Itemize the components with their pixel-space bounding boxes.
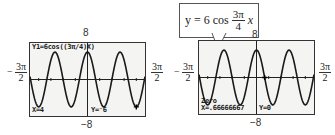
xmax-label: 3π 2 [319, 62, 331, 83]
ymin-label: −8 [250, 117, 261, 128]
right-graph-panel: y = 6 cos 3π 4 x 8 − 3π 2 Zero X=.666666… [168, 0, 335, 135]
trace-y-value: Y=⁻6 [91, 107, 107, 114]
xmax-label: 3π 2 [151, 62, 163, 83]
xmin-label: − 3π 2 [15, 62, 27, 83]
result-y-value: Y=0 [259, 105, 271, 112]
equation-line: Y1=6cos((3π/4)X) [32, 44, 95, 51]
ymax-label: 8 [252, 29, 258, 40]
callout-lhs: y = 6 cos [185, 13, 229, 28]
xmin-label: − 3π 2 [182, 62, 194, 83]
ymin-label: −8 [81, 119, 92, 130]
callout-fraction: 3π 4 [232, 9, 245, 32]
calculator-screen: Y1=6cos((3π/4)X) X=4 Y=⁻6 [29, 42, 146, 117]
callout-variable: x [248, 13, 253, 28]
ymax-label: 8 [83, 27, 89, 38]
trace-x-value: X=4 [32, 107, 44, 114]
left-graph-panel: 8 − 3π 2 Y1=6cos((3π/4)X) X=4 Y=⁻6 3π 2 … [0, 0, 168, 135]
cosine-plot [30, 43, 145, 116]
calculator-screen: Zero X=.66666667 Y=0 [198, 40, 315, 115]
result-x-value: X=.66666667 [201, 105, 244, 112]
